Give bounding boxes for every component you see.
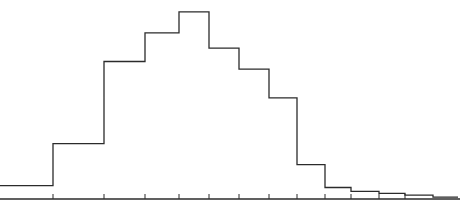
histogram-chart bbox=[0, 0, 466, 208]
histogram-svg bbox=[0, 0, 466, 208]
histogram-step-line bbox=[0, 12, 458, 197]
